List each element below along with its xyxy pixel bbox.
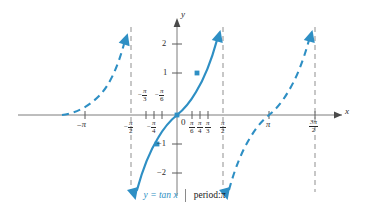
denominator: 2 — [128, 128, 134, 135]
denominator: 2 — [309, 127, 318, 134]
x-tick-label-neg-pi: −π — [77, 120, 86, 129]
y-axis-label: y — [181, 10, 185, 19]
x-axis-label: x — [345, 107, 349, 116]
caption-period-symbol: π — [221, 190, 226, 200]
plot-canvas — [0, 0, 369, 213]
y-axis — [174, 18, 181, 196]
point-marker-pi-4 — [195, 71, 200, 76]
tangent-function-graph-figure: x y 0 2 1 −1 −2 −π − π 2 − π 3 − π 6 − π… — [0, 0, 369, 213]
y-tick-label-1: 1 — [163, 68, 167, 77]
caption-period-text: period: — [194, 191, 221, 201]
x-tick-label-pi-quarter: π 4 — [197, 120, 203, 135]
denominator: 4 — [151, 128, 157, 135]
denominator: 3 — [205, 128, 211, 135]
x-tick-label-neg-pi-third: − π 3 — [138, 88, 147, 103]
figure-caption: y = tan xperiod: π — [0, 189, 369, 202]
x-tick-label-pi-sixth: π 6 — [189, 120, 195, 135]
tangent-branch-left-dashed — [62, 32, 132, 115]
caption-function-label: y = tan x — [144, 191, 185, 201]
y-tick-label-2: 2 — [162, 39, 166, 48]
point-marker-origin — [175, 113, 180, 118]
x-tick-label-pi-half: π 2 — [220, 120, 226, 135]
x-tick-label-neg-pi-half: − π 2 — [124, 120, 133, 135]
denominator: 3 — [142, 96, 148, 103]
y-tick-label-neg1: −1 — [157, 139, 166, 148]
denominator: 6 — [189, 128, 195, 135]
x-tick-label-neg-pi-sixth: − π 6 — [155, 88, 164, 103]
pi-symbol: π — [82, 119, 86, 129]
arrowhead-left-branch — [119, 32, 133, 47]
x-tick-label-pi: π — [266, 120, 270, 129]
y-tick-label-neg2: −2 — [157, 168, 166, 177]
x-tick-label-three-pi-half: 3π 2 — [309, 119, 318, 134]
origin-label: 0 — [181, 118, 186, 127]
denominator: 6 — [159, 96, 165, 103]
x-tick-label-neg-pi-quarter: − π 4 — [147, 120, 156, 135]
denominator: 4 — [197, 128, 203, 135]
x-tick-label-pi-third: π 3 — [205, 120, 211, 135]
caption-period-label: period: π — [186, 191, 226, 201]
denominator: 2 — [220, 128, 226, 135]
